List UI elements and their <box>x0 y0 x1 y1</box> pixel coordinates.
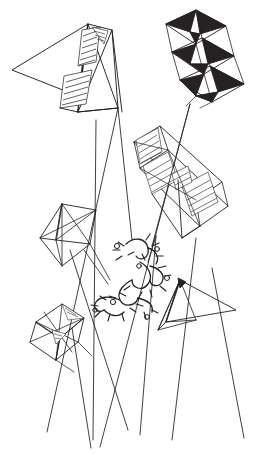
dark-triangle-2a <box>172 44 196 64</box>
kite-line-1 <box>93 120 96 440</box>
dark-triangle-2c <box>190 64 208 74</box>
delta-box-kite-top-left <box>12 24 122 112</box>
diamond-kite-mid-left <box>40 204 110 284</box>
cellular-kite-bottom-left <box>30 304 92 372</box>
dark-triangle-3a <box>180 74 204 96</box>
stacked-diamond-kite-top-right <box>166 10 244 108</box>
tangle-knot-eyes <box>93 243 170 319</box>
kite-lower-wing <box>60 108 78 112</box>
tangle-loop-a <box>126 239 148 259</box>
kite-line-2 <box>47 108 118 432</box>
kite-line-5 <box>172 238 196 440</box>
diamond-mid-bridle <box>84 244 110 284</box>
box-kite-middle <box>134 126 228 238</box>
tangle-loop-c <box>119 280 138 305</box>
delta-right-outline <box>166 280 236 322</box>
kite-hatch-band-lower <box>60 70 92 108</box>
dark-triangle-2b <box>202 38 234 64</box>
diamond-mid-lower-wing <box>40 238 90 266</box>
kite-line-6 <box>212 268 244 438</box>
kite-line-overlay-1 <box>118 108 132 240</box>
kite-drawing-canvas: Kites in Flight <box>0 0 264 455</box>
diamond-mid-left-wing <box>40 204 62 240</box>
kite-scene-svg <box>0 0 264 455</box>
dark-triangle-1a <box>166 10 196 32</box>
diamond-mid-spars <box>40 204 96 266</box>
delta-kite-right <box>158 278 236 330</box>
kite-tail-strut-b <box>78 108 118 112</box>
tangle-loop-e <box>104 310 124 316</box>
kite-line-4 <box>140 236 156 435</box>
delta-apex-mark <box>178 278 186 288</box>
tangle-loop-d <box>95 297 120 311</box>
